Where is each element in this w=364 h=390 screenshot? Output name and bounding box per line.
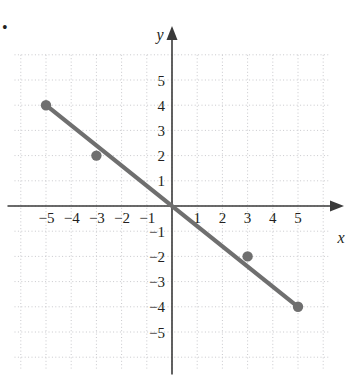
y-tick-label: 3 <box>158 123 166 139</box>
y-tick-label: 4 <box>158 98 166 114</box>
data-point <box>91 150 101 160</box>
y-tick-label: −1 <box>149 224 165 240</box>
figure-bullet-marker: • <box>2 19 8 36</box>
y-tick-label: 1 <box>158 173 166 189</box>
x-tick-label: −4 <box>64 210 80 226</box>
x-tick-label: −2 <box>114 210 130 226</box>
data-point <box>41 100 51 110</box>
data-point <box>242 251 252 261</box>
y-axis-label: y <box>154 26 164 44</box>
y-tick-label: −3 <box>149 274 165 290</box>
coordinate-plane-graph: −5−4−3−2−11234554321−1−2−3−4−5 x y • <box>0 0 364 390</box>
graph-figure: −5−4−3−2−11234554321−1−2−3−4−5 x y • <box>0 0 364 390</box>
y-tick-label: −5 <box>149 325 165 341</box>
x-axis-label: x <box>336 229 344 246</box>
x-tick-label: −3 <box>89 210 105 226</box>
y-tick-label: 2 <box>158 148 166 164</box>
y-tick-label: −4 <box>149 299 165 315</box>
x-tick-label: 5 <box>294 210 302 226</box>
x-tick-label: 4 <box>269 210 277 226</box>
x-tick-label: 3 <box>244 210 252 226</box>
x-tick-label: −5 <box>39 210 55 226</box>
y-tick-label: −2 <box>149 249 165 265</box>
y-tick-label: 5 <box>158 73 166 89</box>
x-tick-label: 2 <box>219 210 227 226</box>
data-point <box>293 302 303 312</box>
